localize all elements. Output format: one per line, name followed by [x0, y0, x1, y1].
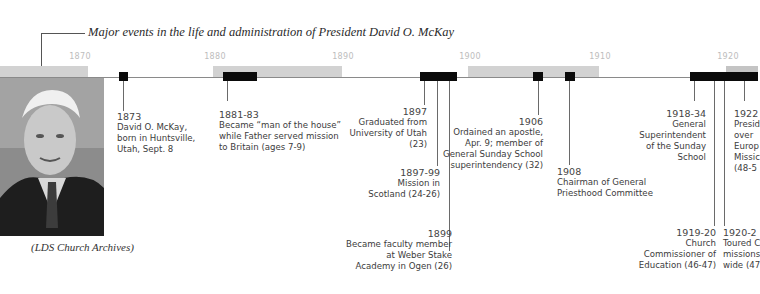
year-label-1870: 1870	[69, 52, 91, 61]
event-line: while Father served mission	[219, 131, 341, 142]
portrait-illustration	[0, 78, 104, 236]
event-bar-1873	[119, 72, 128, 81]
event-line: (23)	[350, 139, 427, 150]
connector-1906	[538, 81, 539, 115]
decade-band-1860s	[0, 66, 88, 77]
event-line: School	[639, 152, 706, 163]
connector-1897	[424, 81, 425, 105]
year-label-1890: 1890	[332, 52, 354, 61]
event-year: 1919-20	[639, 227, 716, 238]
event-1920-2: 1920-2 Toured C missions wide (47	[723, 227, 760, 271]
year-label-1900: 1900	[459, 52, 481, 61]
event-line: Scotland (24-26)	[368, 189, 440, 200]
event-line: Education (46-47)	[639, 260, 716, 271]
portrait-photo	[0, 78, 104, 236]
event-year: 1920-2	[723, 227, 760, 238]
event-line: missions	[723, 249, 760, 260]
event-line: (48-5	[734, 163, 760, 174]
event-line: to Britain (ages 7-9)	[219, 142, 341, 153]
event-1908: 1908 Chairman of General Priesthood Comm…	[557, 166, 653, 199]
event-line: Became “man of the house”	[219, 120, 341, 131]
event-line: Commissioner of	[639, 249, 716, 260]
event-line: David O. McKay,	[117, 122, 195, 133]
event-bar-1906	[533, 72, 543, 81]
connector-1897-99	[437, 81, 438, 166]
title-leader-line	[41, 33, 85, 34]
photo-caption: (LDS Church Archives)	[31, 241, 134, 253]
event-year: 1897	[350, 106, 427, 117]
event-bar-1881-83	[223, 72, 257, 81]
connector-1918-34	[694, 81, 695, 101]
event-1897-99: 1897-99 Mission in Scotland (24-26)	[368, 167, 440, 200]
event-line: Priesthood Committee	[557, 188, 653, 199]
year-label-1920: 1920	[717, 52, 739, 61]
event-line: Missic	[734, 152, 760, 163]
event-line: of the Sunday	[639, 141, 706, 152]
event-line: Mission in	[368, 178, 440, 189]
year-label-1910: 1910	[589, 52, 611, 61]
connector-1873	[123, 81, 124, 111]
connector-1920-2	[724, 81, 725, 226]
event-bar-1918-34	[690, 72, 758, 81]
event-year: 1897-99	[368, 167, 440, 178]
timeline-baseline	[0, 77, 758, 78]
event-line: at Weber Stake	[346, 250, 452, 261]
event-line: Graduated from	[350, 117, 427, 128]
event-line: Became faculty member	[346, 239, 452, 250]
event-line: over	[734, 130, 760, 141]
event-bar-1908	[565, 72, 575, 81]
event-1881-83: 1881-83 Became “man of the house” while …	[219, 109, 341, 153]
event-1919-20: 1919-20 Church Commissioner of Education…	[639, 227, 716, 271]
connector-1881-83	[227, 81, 228, 101]
event-year: 1873	[117, 111, 195, 122]
event-year: 1906	[443, 116, 543, 127]
connector-1919-20	[714, 81, 715, 226]
event-line: Presid	[734, 119, 760, 130]
connector-1908	[569, 81, 570, 165]
event-1897: 1897 Graduated from University of Utah (…	[350, 106, 427, 150]
event-line: born in Huntsville,	[117, 133, 195, 144]
event-year: 1899	[346, 228, 452, 239]
event-1899: 1899 Became faculty member at Weber Stak…	[346, 228, 452, 272]
event-line: Church	[639, 238, 716, 249]
event-1922: 1922 Presid over Europ Missic (48-5	[734, 108, 760, 174]
event-bar-1897-99	[420, 72, 457, 81]
event-line: Toured C	[723, 238, 760, 249]
event-line: General Sunday School	[443, 149, 543, 160]
event-year: 1922	[734, 108, 760, 119]
year-label-1880: 1880	[204, 52, 226, 61]
event-1918-34: 1918-34 General Superintendent of the Su…	[639, 108, 706, 163]
event-line: Superintendent	[639, 130, 706, 141]
page-title: Major events in the life and administrat…	[88, 25, 454, 40]
event-1873: 1873 David O. McKay, born in Huntsville,…	[117, 111, 195, 155]
event-1906: 1906 Ordained an apostle, Apr. 9; member…	[443, 116, 543, 171]
event-year: 1881-83	[219, 109, 341, 120]
event-line: superintendency (32)	[443, 160, 543, 171]
event-line: Utah, Sept. 8	[117, 144, 195, 155]
event-line: Chairman of General	[557, 177, 653, 188]
decade-band-1870s	[88, 66, 213, 77]
connector-1922	[744, 81, 745, 101]
event-line: Academy in Ogen (26)	[346, 261, 452, 272]
event-year: 1918-34	[639, 108, 706, 119]
event-line: University of Utah	[350, 128, 427, 139]
event-line: Europ	[734, 141, 760, 152]
event-line: General	[639, 119, 706, 130]
event-year: 1908	[557, 166, 653, 177]
event-line: wide (47	[723, 260, 760, 271]
event-line: Apr. 9; member of	[443, 138, 543, 149]
event-line: Ordained an apostle,	[443, 127, 543, 138]
